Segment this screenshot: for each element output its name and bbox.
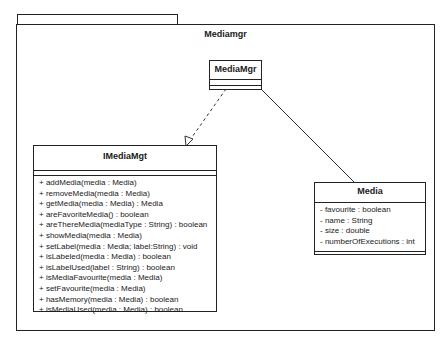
operations-compartment (315, 251, 425, 252)
operation: + isLabeled(media : Media) : boolean (39, 252, 216, 263)
attributes-compartment: - favourite : boolean - name : String - … (315, 202, 425, 251)
realization-line (190, 89, 226, 140)
operation: + setFavourite(media : Media) (39, 284, 216, 295)
operation: + getMedia(media : Media) : Media (39, 199, 216, 210)
operations-compartment (210, 85, 261, 86)
operation: + setLabel(media : Media; label:String) … (39, 242, 216, 253)
association-line (261, 89, 354, 182)
class-name: IMediaMgt (34, 146, 216, 170)
attribute: - favourite : boolean (320, 205, 425, 216)
operation: + isMediaFavourite(media : Media) (39, 273, 216, 284)
operation: + areFavoriteMedia() : boolean (39, 210, 216, 221)
operation: + isLabelUsed(label : String) : boolean (39, 263, 216, 274)
operation: + showMedia(media : Media) (39, 231, 216, 242)
attribute: - name : String (320, 216, 425, 227)
class-name: Media (315, 183, 425, 202)
operation: + addMedia(media : Media) (39, 178, 216, 189)
class-mediamgr[interactable]: MediaMgr (209, 60, 262, 90)
operations-compartment: + addMedia(media : Media) + removeMedia(… (34, 175, 216, 316)
operation: + hasMemory(media : Media) : boolean (39, 295, 216, 306)
interface-imediamgt[interactable]: IMediaMgt + addMedia(media : Media) + re… (33, 145, 217, 312)
attribute: - numberOfExecutions : int (320, 237, 425, 248)
operation: + isMediaUsed(media : Media) : boolean (39, 305, 216, 316)
class-media[interactable]: Media - favourite : boolean - name : Str… (314, 182, 426, 255)
attribute: - size : double (320, 226, 425, 237)
operation: + areThereMedia(mediaType : String) : bo… (39, 220, 216, 231)
class-name: MediaMgr (210, 61, 261, 79)
operation: + removeMedia(media : Media) (39, 189, 216, 200)
